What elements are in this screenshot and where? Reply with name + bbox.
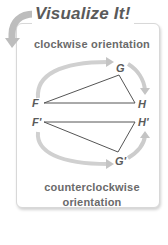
header-title: Visualize It!	[32, 4, 134, 24]
triangle-fgh	[44, 75, 135, 103]
label-f-prime: F'	[32, 116, 42, 128]
caption-counterclockwise: counterclockwise orientation	[8, 180, 168, 210]
caption-bottom-line1: counterclockwise	[8, 180, 168, 195]
caption-bottom-line2: orientation	[8, 195, 168, 210]
triangle-fhg-prime	[44, 122, 135, 152]
clockwise-arrow-icon	[38, 57, 150, 98]
label-f: F	[32, 97, 39, 109]
label-h: H	[138, 98, 147, 110]
label-h-prime: H'	[138, 116, 149, 128]
caption-clockwise: clockwise orientation	[8, 38, 168, 50]
label-g: G	[116, 62, 125, 74]
counterclockwise-arrow-icon	[38, 131, 150, 169]
label-g-prime: G'	[115, 155, 127, 167]
